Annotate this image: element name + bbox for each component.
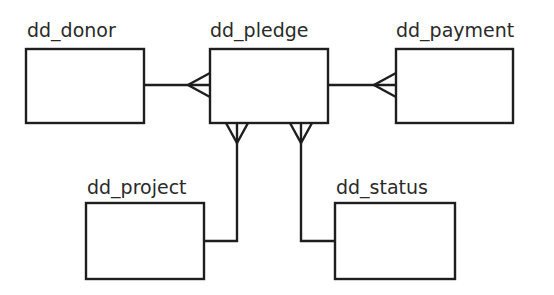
- relationship-line: [204, 123, 237, 241]
- entity-label-project: dd_project: [87, 176, 187, 199]
- entity-project: dd_project: [86, 176, 204, 279]
- erd-diagram: dd_donor dd_pledge dd_payment dd_project…: [0, 0, 554, 295]
- relationship-donor-pledge: [144, 73, 210, 97]
- entity-box-status: [335, 203, 455, 279]
- entity-box-pledge: [210, 49, 328, 123]
- entity-box-payment: [396, 49, 513, 123]
- entity-label-donor: dd_donor: [27, 19, 116, 42]
- relationship-project-pledge: [204, 123, 248, 241]
- relationship-pledge-payment: [328, 73, 396, 97]
- entity-label-status: dd_status: [336, 176, 428, 199]
- entity-status: dd_status: [335, 176, 455, 279]
- entity-label-payment: dd_payment: [396, 19, 514, 42]
- entity-donor: dd_donor: [26, 19, 144, 123]
- entity-pledge: dd_pledge: [210, 19, 328, 123]
- entity-label-pledge: dd_pledge: [210, 19, 308, 42]
- relationship-line: [301, 123, 335, 241]
- relationship-status-pledge: [290, 123, 335, 241]
- entity-payment: dd_payment: [396, 19, 514, 123]
- entity-box-donor: [26, 49, 144, 123]
- entity-box-project: [86, 203, 204, 279]
